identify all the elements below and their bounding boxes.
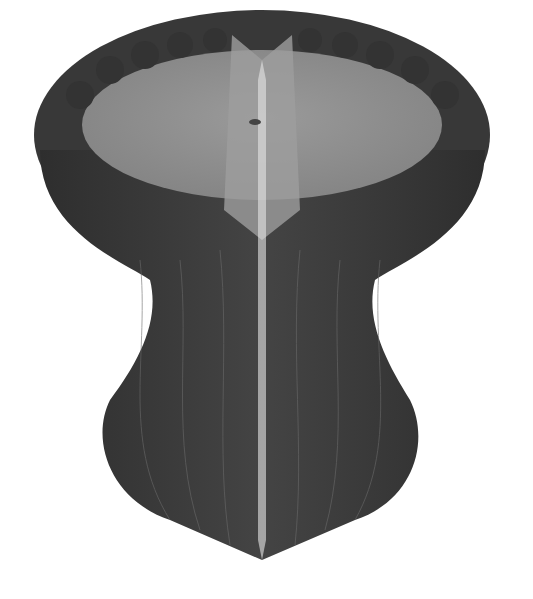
lantern-body (34, 10, 490, 560)
lantern-photo (0, 0, 533, 599)
